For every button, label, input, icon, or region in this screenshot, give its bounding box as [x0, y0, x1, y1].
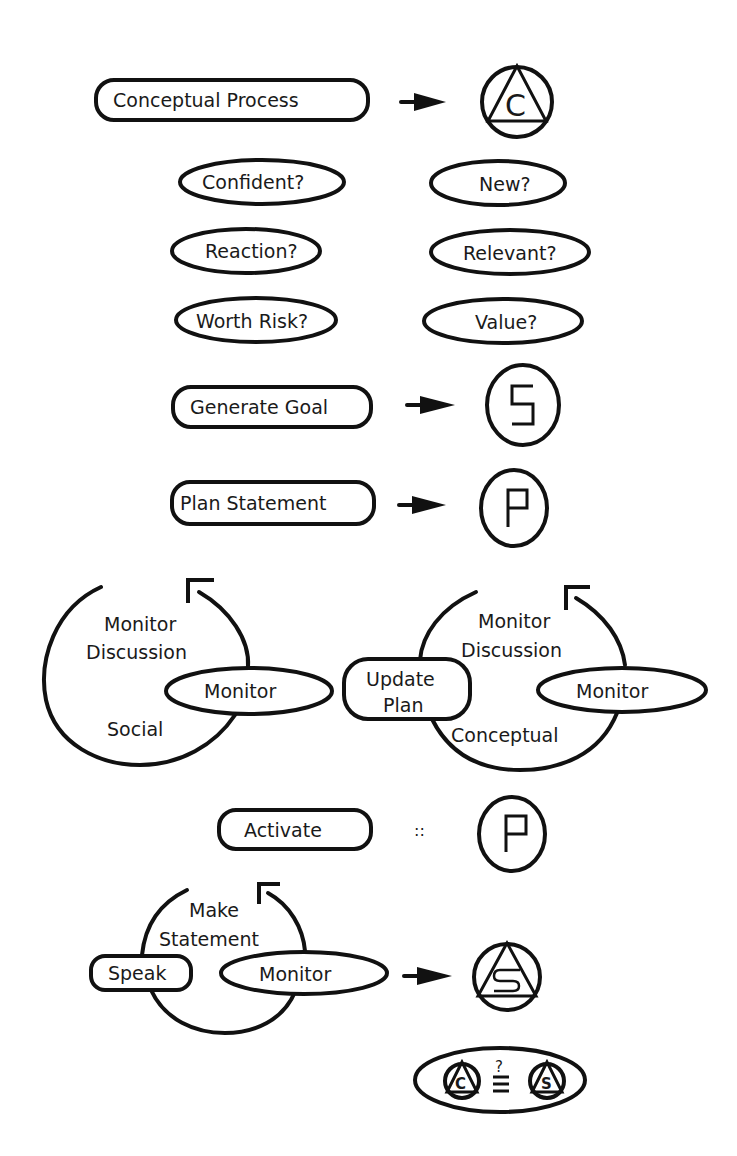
conceptual-process-label: Conceptual Process — [113, 89, 299, 111]
question-label: Relevant? — [463, 242, 556, 264]
loop-title: Monitor — [478, 610, 550, 632]
arrow-icon — [407, 396, 455, 414]
loop-title: Discussion — [86, 641, 187, 663]
plan-statement-label: Plan Statement — [180, 492, 326, 514]
social-monitor-loop: Monitor Discussion Monitor Social — [44, 580, 332, 765]
question-label: Reaction? — [205, 240, 298, 262]
comparison-left-symbol: C — [455, 1075, 466, 1093]
activate-row: Activate :: — [219, 797, 545, 871]
statement-triangle-circle-icon — [474, 943, 540, 1010]
question-label: Value? — [475, 311, 537, 333]
goal-s-circle-icon — [487, 365, 559, 445]
question-ellipses: Confident? New? Reaction? Relevant? Wort… — [172, 160, 589, 343]
speak-label: Speak — [108, 962, 166, 984]
question-label: Worth Risk? — [196, 310, 308, 332]
conceptual-symbol: C — [505, 88, 526, 123]
loop-title: Make — [189, 899, 239, 921]
monitor-label: Monitor — [204, 680, 276, 702]
arrow-icon — [401, 93, 446, 111]
question-label: Confident? — [202, 171, 304, 193]
comparison-group: C ? S — [415, 1048, 585, 1112]
question-mark-symbol: ? — [495, 1058, 503, 1076]
monitor-label: Monitor — [259, 963, 331, 985]
arrow-icon — [399, 496, 446, 514]
plan-p-circle-icon — [479, 797, 545, 871]
activate-label: Activate — [244, 819, 322, 841]
update-plan-label: Plan — [383, 694, 423, 716]
loop-title: Monitor — [104, 613, 176, 635]
generate-goal-row: Generate Goal — [173, 365, 559, 445]
loop-title: Statement — [159, 928, 259, 950]
question-label: New? — [479, 173, 531, 195]
generate-goal-label: Generate Goal — [190, 396, 328, 418]
plan-statement-row: Plan Statement — [172, 470, 547, 546]
comparison-right-symbol: S — [541, 1075, 552, 1093]
plan-p-circle-icon — [481, 470, 547, 546]
loop-title: Discussion — [461, 639, 562, 661]
make-statement-loop: Make Statement Speak Monitor — [91, 884, 540, 1033]
loop-type-label: Social — [107, 718, 163, 740]
conceptual-process-row: Conceptual Process C — [96, 66, 552, 137]
conceptual-triangle-circle-icon: C — [482, 66, 552, 137]
conceptual-monitor-loop: Monitor Discussion Update Plan Monitor C… — [344, 587, 706, 770]
arrow-icon — [404, 967, 452, 985]
monitor-label: Monitor — [576, 680, 648, 702]
update-plan-label: Update — [366, 668, 435, 690]
loop-type-label: Conceptual — [451, 724, 559, 746]
relation-symbol: :: — [414, 821, 425, 840]
